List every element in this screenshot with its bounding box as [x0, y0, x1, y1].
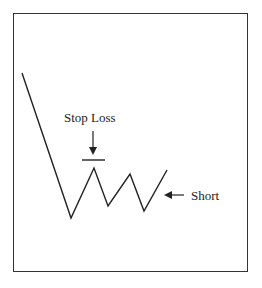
diagram-canvas — [0, 0, 262, 288]
short-label: Short — [191, 189, 219, 202]
price-line — [22, 73, 167, 218]
stop-loss-label: Stop Loss — [64, 111, 116, 124]
